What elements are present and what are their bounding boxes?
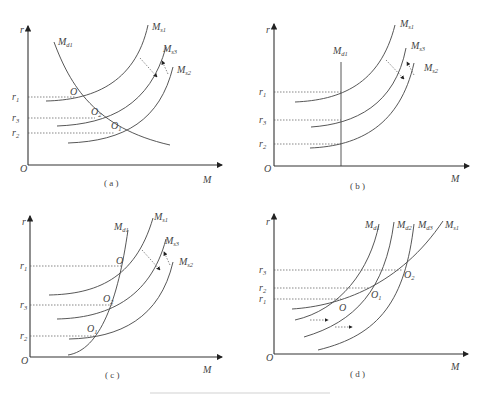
demand-curve-d1 (295, 224, 379, 320)
axis-y-label: r (266, 24, 270, 35)
origin-label: O (264, 163, 271, 174)
equilibrium-o1: O1 (87, 323, 97, 335)
equilibrium-o2: O2 (103, 293, 114, 305)
label-md2: Md2 (396, 219, 413, 231)
figure-caption-faded (150, 392, 330, 394)
shift-arrow-up (164, 252, 170, 265)
axis-x-label: M (450, 173, 460, 184)
label-ms1: Ms1 (151, 21, 166, 33)
demand-curve-d3 (318, 224, 414, 350)
shift-arrow-up (162, 61, 168, 74)
supply-curve-s2 (310, 63, 414, 148)
label-ms3: Ms3 (410, 40, 426, 52)
panel-c: r O M r1 r3 r2 O O2 O1 Ms1 Ms3 Ms2 Md1 (… (20, 211, 222, 380)
origin-label: O (20, 163, 27, 174)
label-ms1: Ms1 (153, 211, 168, 223)
origin-label: O (21, 355, 28, 366)
label-md1: Md1 (57, 36, 73, 48)
equilibrium-o2: O2 (404, 269, 415, 281)
axis-y-label: r (266, 216, 270, 227)
supply-curve-s1 (295, 25, 395, 102)
label-ms2: Ms2 (423, 62, 439, 74)
label-md1: Md1 (332, 45, 348, 57)
shift-arrow-down (142, 250, 160, 270)
r3-label: r3 (20, 299, 28, 311)
supply-curve-s3 (311, 48, 406, 127)
r3-label: r3 (259, 114, 267, 126)
supply-curve-s1 (49, 218, 153, 295)
supply-curve-s2 (69, 262, 173, 339)
equilibrium-o1: O1 (111, 120, 121, 132)
equilibrium-o: O (70, 86, 77, 97)
axis-y-label: r (20, 24, 24, 35)
origin-label: O (266, 352, 273, 363)
label-md1: Md1 (113, 221, 129, 233)
r1-label: r1 (259, 293, 266, 305)
panel-d: r O M r3 r2 r1 O O1 O2 Md1 Md2 Md3 Ms1 (… (259, 214, 468, 379)
axis-y-label: r (22, 216, 26, 227)
label-ms2: Ms2 (176, 64, 192, 76)
axis-x-label: M (450, 361, 460, 372)
shift-arrow-down (140, 58, 157, 77)
label-md1: Md1 (364, 219, 380, 231)
equilibrium-o: O (116, 255, 123, 266)
axis-x-label: M (202, 364, 212, 375)
label-ms1: Ms1 (444, 219, 459, 231)
panel-caption: ( c ) (105, 370, 120, 380)
r2-label: r2 (20, 330, 28, 342)
equilibrium-o1: O1 (371, 289, 381, 301)
equilibrium-o2: O2 (91, 106, 102, 118)
label-ms3: Ms3 (162, 43, 178, 55)
r1-label: r1 (20, 260, 27, 272)
label-ms3: Ms3 (164, 235, 180, 247)
equilibrium-o: O (339, 302, 346, 313)
r3-label: r3 (12, 112, 20, 124)
axis-x-label: M (202, 174, 212, 185)
money-market-figure: r O M r1 r3 r2 O O2 O1 Ms1 Ms3 Ms2 Md1 (… (0, 0, 483, 400)
panel-caption: ( d ) (350, 369, 365, 379)
panel-caption: ( b ) (350, 181, 365, 191)
panel-b: r O M r1 r3 r2 Ms1 Ms3 Ms2 Md1 ( b ) (259, 18, 469, 191)
panel-caption: ( a ) (104, 178, 119, 188)
label-ms2: Ms2 (178, 256, 194, 268)
r2-label: r2 (259, 138, 267, 150)
shift-arrow-down (386, 60, 404, 79)
label-ms1: Ms1 (399, 18, 414, 30)
r1-label: r1 (12, 91, 19, 103)
r1-label: r1 (259, 86, 266, 98)
r3-label: r3 (259, 264, 267, 276)
panel-a: r O M r1 r3 r2 O O2 O1 Ms1 Ms3 Ms2 Md1 (… (12, 21, 222, 188)
r2-label: r2 (12, 127, 20, 139)
label-md3: Md3 (417, 219, 434, 231)
